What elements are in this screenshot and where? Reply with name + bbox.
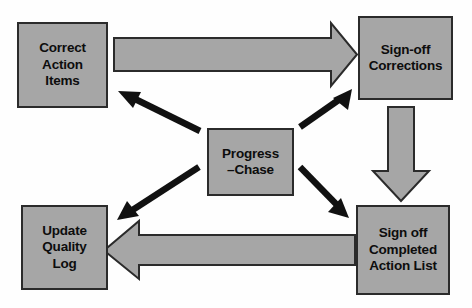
node-label-line: –Chase [227,162,274,178]
node-correct-action-items[interactable]: Correct Action Items [17,22,108,108]
node-label-line: Completed [369,242,437,258]
node-label-line: Action [42,57,83,73]
line-arrow-down-right [300,167,349,218]
node-label-line: Correct [39,40,86,56]
diagram-canvas: Correct Action Items Sign-off Correction… [0,0,472,308]
node-progress-chase[interactable]: Progress –Chase [207,128,294,196]
block-arrow-down-right [373,107,429,201]
node-label-line: Sign-off [381,42,430,58]
line-arrow-down-left [117,167,199,220]
node-label-line: Progress [222,146,279,162]
node-label-line: Log [52,256,76,272]
line-arrow-up-left [118,91,200,131]
node-label-line: Action List [369,258,437,274]
line-arrow-up-right [300,89,352,127]
node-update-quality-log[interactable]: Update Quality Log [21,205,108,290]
block-arrow-left-bottom [104,221,355,279]
block-arrow-right-top [114,23,357,86]
node-label-line: Update [42,223,87,239]
node-label-line: Quality [42,239,86,255]
node-label-line: Items [45,73,79,89]
node-label-line: Corrections [369,58,443,74]
node-sign-off-completed-action-list[interactable]: Sign off Completed Action List [356,205,450,295]
node-label-line: Sign off [379,225,428,241]
node-sign-off-corrections[interactable]: Sign-off Corrections [358,16,453,100]
